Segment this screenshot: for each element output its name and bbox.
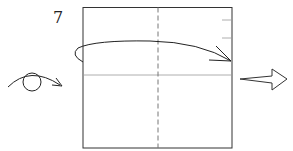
turn-over-eye-icon (8, 73, 62, 91)
next-step-arrow-icon (240, 69, 287, 90)
fold-diagram (0, 0, 293, 151)
reference-ticks (222, 20, 232, 38)
fold-arrow-icon (75, 41, 231, 62)
paper-square (83, 8, 232, 149)
